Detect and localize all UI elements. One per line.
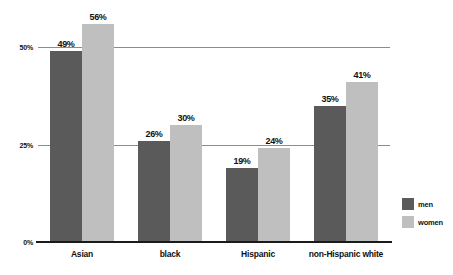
legend-entry-women[interactable]: women	[402, 216, 452, 228]
y-axis: 0%25%50%	[0, 8, 33, 242]
bar-slot: 30%	[170, 8, 202, 242]
bar[interactable]	[258, 148, 290, 242]
y-tick-label-0pct: 0%	[23, 239, 33, 246]
bar-value-label: 19%	[233, 156, 250, 166]
legend-label-men: men	[418, 200, 433, 209]
bar-groups: 49%56%26%30%19%24%35%41%	[38, 8, 390, 242]
bar-group: 19%24%	[214, 8, 302, 242]
legend-swatch-men	[402, 198, 414, 210]
bar-value-label: 41%	[353, 70, 370, 80]
bar-chart: 0%25%50% 49%56%26%30%19%24%35%41% Asianb…	[0, 0, 453, 275]
bar-group: 35%41%	[302, 8, 390, 242]
x-tick-label: black	[126, 249, 214, 269]
legend-entry-men[interactable]: men	[402, 198, 452, 210]
bar-group: 49%56%	[38, 8, 126, 242]
bar[interactable]	[314, 106, 346, 243]
bar-slot: 35%	[314, 8, 346, 242]
legend-swatch-women	[402, 216, 414, 228]
bar-value-label: 56%	[89, 12, 106, 22]
plot-area: 49%56%26%30%19%24%35%41%	[38, 8, 390, 242]
bar-slot: 19%	[226, 8, 258, 242]
bar[interactable]	[50, 51, 82, 242]
bar[interactable]	[138, 141, 170, 242]
bar-value-label: 24%	[265, 136, 282, 146]
x-tick-label: non-Hispanic white	[302, 249, 390, 269]
bar-value-label: 30%	[177, 113, 194, 123]
bar-slot: 49%	[50, 8, 82, 242]
bar[interactable]	[346, 82, 378, 242]
x-axis: AsianblackHispanicnon-Hispanic white	[38, 249, 390, 269]
y-tick-label-50pct: 50%	[20, 44, 33, 51]
bar-slot: 41%	[346, 8, 378, 242]
bar-slot: 24%	[258, 8, 290, 242]
bar[interactable]	[170, 125, 202, 242]
x-axis-baseline	[36, 241, 392, 243]
bar-value-label: 26%	[145, 129, 162, 139]
bar-group: 26%30%	[126, 8, 214, 242]
bar[interactable]	[226, 168, 258, 242]
bar[interactable]	[82, 24, 114, 242]
legend-label-women: women	[418, 218, 443, 227]
bar-slot: 56%	[82, 8, 114, 242]
bar-slot: 26%	[138, 8, 170, 242]
legend: menwomen	[402, 198, 452, 234]
x-tick-label: Hispanic	[214, 249, 302, 269]
x-tick-label: Asian	[38, 249, 126, 269]
bar-value-label: 49%	[57, 39, 74, 49]
bar-value-label: 35%	[321, 94, 338, 104]
y-tick-label-25pct: 25%	[20, 141, 33, 148]
